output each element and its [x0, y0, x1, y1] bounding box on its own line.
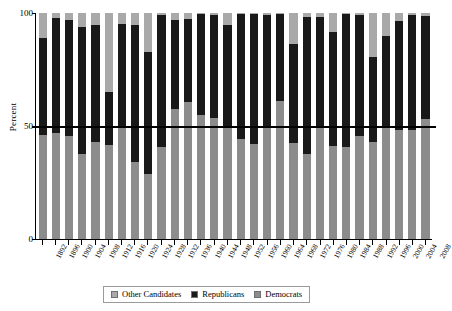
legend-swatch-democrats-icon	[254, 291, 261, 298]
x-tick-label-1928: 1928	[173, 243, 187, 260]
chart-legend: Other Candidates Republicans Democrats	[103, 286, 310, 303]
x-tick-label-1956: 1956	[266, 243, 280, 260]
bar-segment-democrats-1988	[355, 136, 363, 239]
x-tick-label-1980: 1980	[345, 243, 359, 260]
x-tick-label-2004: 2004	[425, 243, 439, 260]
x-tick-label-1952: 1952	[253, 243, 267, 260]
bar-segment-democrats-1924	[144, 174, 152, 239]
bar-segment-republicans-2004	[408, 15, 416, 130]
x-tick-label-1984: 1984	[359, 243, 373, 260]
x-tick-label-1944: 1944	[226, 243, 240, 260]
bar-segment-democrats-1972	[303, 154, 311, 239]
bar-segment-republicans-1904	[78, 27, 86, 154]
bar-segment-democrats-1908	[91, 142, 99, 239]
bar-segment-republicans-1988	[355, 15, 363, 136]
bar-segment-other-1924	[144, 13, 152, 52]
x-tick-label-1996: 1996	[398, 243, 412, 260]
bar-segment-republicans-1972	[303, 17, 311, 154]
x-tick-label-1992: 1992	[385, 243, 399, 260]
bar-segment-republicans-1980	[329, 32, 337, 147]
bar-segment-republicans-1916	[118, 24, 126, 128]
x-tick-label-1924: 1924	[160, 243, 174, 260]
x-tick-label-1976: 1976	[332, 243, 346, 260]
bar-segment-democrats-1980	[329, 146, 337, 239]
plot-area: 050100	[35, 13, 432, 240]
bar-segment-democrats-1896	[52, 133, 60, 239]
bar-segment-democrats-2000	[395, 130, 403, 239]
bar-segment-republicans-1956	[250, 14, 258, 144]
bar-segment-republicans-1976	[316, 17, 324, 125]
bar-segment-democrats-1976	[316, 126, 324, 239]
x-tick-label-1972: 1972	[319, 243, 333, 260]
reference-line-50	[32, 126, 436, 128]
bar-segment-republicans-1908	[91, 25, 99, 142]
bar-segment-republicans-1940	[197, 14, 205, 115]
bar-segment-republicans-2000	[395, 21, 403, 129]
bar-segment-democrats-1948	[223, 127, 231, 239]
bar-segment-republicans-1892	[39, 38, 47, 135]
x-tick-label-1960: 1960	[279, 243, 293, 260]
legend-swatch-other-icon	[111, 291, 118, 298]
bar-segment-other-1992	[369, 13, 377, 57]
bar-segment-democrats-1916	[118, 128, 126, 239]
x-tick-label-1932: 1932	[187, 243, 201, 260]
x-tick-label-1968: 1968	[306, 243, 320, 260]
bar-segment-republicans-1964	[276, 14, 284, 101]
bar-segment-other-2000	[395, 13, 403, 21]
x-tick-label-1964: 1964	[292, 243, 306, 260]
bar-segment-republicans-1932	[171, 20, 179, 109]
bar-segment-democrats-1952	[237, 139, 245, 239]
y-tick-mark	[32, 13, 36, 14]
legend-item-republicans[interactable]: Republicans	[191, 290, 244, 299]
y-axis-title: Percent	[8, 82, 18, 152]
bar-segment-democrats-1984	[342, 147, 350, 239]
bar-segment-democrats-2004	[408, 130, 416, 239]
bar-segment-democrats-1920	[131, 162, 139, 239]
x-tick-label-1940: 1940	[213, 243, 227, 260]
bar-segment-republicans-1960	[263, 15, 271, 127]
bar-segment-republicans-1936	[184, 19, 192, 101]
legend-label-other: Other Candidates	[122, 290, 181, 299]
bar-segment-democrats-2008	[421, 119, 429, 239]
bar-segment-republicans-1996	[382, 36, 390, 128]
legend-item-democrats[interactable]: Democrats	[254, 290, 302, 299]
bar-segment-other-1980	[329, 13, 337, 32]
bar-segment-republicans-1948	[223, 25, 231, 127]
x-tick-label-1900: 1900	[81, 243, 95, 260]
x-tick-label-1936: 1936	[200, 243, 214, 260]
bar-segment-other-1920	[131, 13, 139, 25]
bar-segment-democrats-1900	[65, 136, 73, 239]
bar-segment-other-1996	[382, 13, 390, 36]
x-tick-label-1920: 1920	[147, 243, 161, 260]
x-tick-label-layer: 1892189619001904190819121916192019241928…	[35, 243, 432, 283]
legend-item-other[interactable]: Other Candidates	[111, 290, 181, 299]
legend-label-democrats: Democrats	[265, 290, 302, 299]
bar-segment-other-1904	[78, 13, 86, 27]
bar-segment-democrats-1992	[369, 142, 377, 239]
bar-segment-democrats-1928	[157, 147, 165, 239]
bar-segment-democrats-1932	[171, 109, 179, 239]
legend-swatch-republicans-icon	[191, 291, 198, 298]
bar-segment-republicans-1992	[369, 57, 377, 142]
x-tick-label-2000: 2000	[412, 243, 426, 260]
x-tick-label-1892: 1892	[54, 243, 68, 260]
bar-segment-republicans-1896	[52, 18, 60, 133]
bar-segment-democrats-1892	[39, 135, 47, 239]
bar-segment-democrats-1936	[184, 102, 192, 239]
bar-segment-other-1916	[118, 13, 126, 24]
bar-segment-democrats-1940	[197, 115, 205, 239]
bar-segment-democrats-1960	[263, 127, 271, 239]
x-tick-label-1908: 1908	[107, 243, 121, 260]
bar-segment-republicans-1952	[237, 14, 245, 139]
bar-segment-democrats-1956	[250, 144, 258, 239]
y-tick-label-100: 100	[20, 9, 34, 18]
bar-segment-republicans-1912	[105, 92, 113, 144]
legend-label-republicans: Republicans	[202, 290, 244, 299]
bar-segment-other-1932	[171, 13, 179, 20]
bar-segment-republicans-1924	[144, 52, 152, 174]
bar-segment-republicans-1944	[210, 15, 218, 119]
x-tick-label-1988: 1988	[372, 243, 386, 260]
bar-segment-other-1968	[289, 13, 297, 44]
x-tick-label-1904: 1904	[94, 243, 108, 260]
